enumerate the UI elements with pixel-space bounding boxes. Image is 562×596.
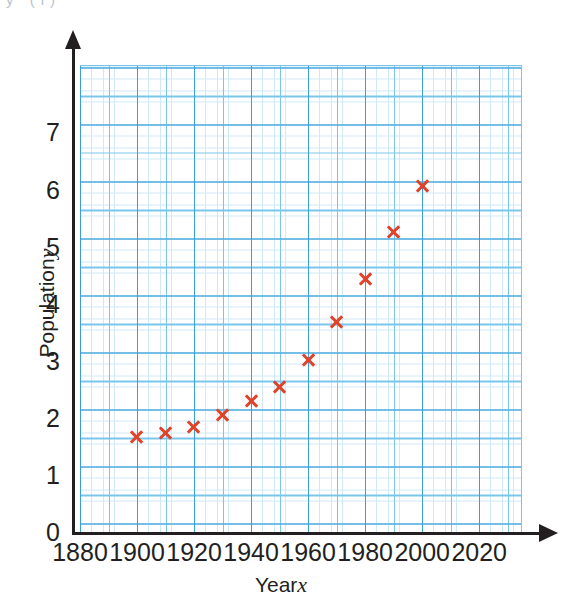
y-axis-title-variable: y bbox=[34, 249, 59, 259]
scatter-chart-figure: 01234567 1880190019201940196019802000202… bbox=[0, 0, 562, 596]
y-axis-line bbox=[72, 46, 75, 535]
y-axis-arrowhead-icon bbox=[65, 30, 81, 49]
y-tick-label: 1 bbox=[20, 463, 60, 488]
x-axis-arrowhead-icon bbox=[539, 524, 558, 542]
x-tick-label: 2020 bbox=[444, 540, 514, 565]
grid-right-edge bbox=[521, 65, 522, 533]
x-axis-title: Yearx bbox=[0, 572, 562, 596]
x-axis-title-variable: x bbox=[297, 572, 307, 596]
grid-top-edge bbox=[80, 65, 522, 66]
x-axis-title-text: Year bbox=[255, 573, 297, 596]
y-tick-label: 7 bbox=[20, 120, 60, 145]
plot-grid-area bbox=[80, 65, 522, 533]
x-axis-line bbox=[72, 532, 544, 535]
y-axis-title: Populationy bbox=[34, 173, 60, 433]
y-axis-title-text: Population bbox=[35, 258, 58, 357]
